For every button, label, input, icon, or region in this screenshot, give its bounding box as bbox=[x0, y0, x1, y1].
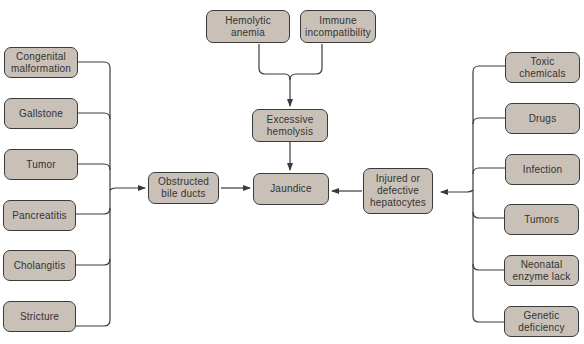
node-infection: Infection bbox=[505, 154, 580, 185]
node-obstructed-bile-ducts: Obstructed bile ducts bbox=[148, 172, 219, 204]
node-pancreatitis: Pancreatitis bbox=[3, 200, 76, 231]
node-cholangitis: Cholangitis bbox=[3, 250, 76, 281]
node-excessive-hemolysis: Excessive hemolysis bbox=[252, 109, 328, 142]
node-tumors: Tumors bbox=[504, 204, 579, 235]
node-immune-incompatibility: Immune incompatibility bbox=[300, 10, 376, 43]
node-stricture: Stricture bbox=[3, 301, 76, 332]
node-hemolytic-anemia: Hemolytic anemia bbox=[206, 10, 290, 43]
node-drugs: Drugs bbox=[505, 103, 580, 134]
node-jaundice: Jaundice bbox=[253, 173, 329, 205]
node-congenital-malformation: Congenital malformation bbox=[4, 47, 78, 78]
connector-lines bbox=[0, 0, 584, 344]
jaundice-causes-diagram: Hemolytic anemia Immune incompatibility … bbox=[0, 0, 584, 344]
node-genetic-deficiency: Genetic deficiency bbox=[504, 306, 579, 337]
node-neonatal-enzyme-lack: Neonatal enzyme lack bbox=[504, 255, 579, 286]
node-tumor: Tumor bbox=[4, 149, 78, 180]
node-gallstone: Gallstone bbox=[4, 98, 78, 129]
node-injured-defective-hepatocytes: Injured or defective hepatocytes bbox=[363, 168, 433, 214]
node-toxic-chemicals: Toxic chemicals bbox=[505, 52, 580, 83]
